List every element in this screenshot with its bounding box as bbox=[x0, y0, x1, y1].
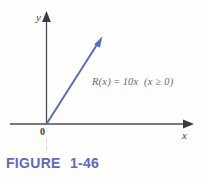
equation-equals: = bbox=[114, 76, 120, 87]
equation-rhs: 10x bbox=[123, 76, 139, 87]
x-axis-arrowhead bbox=[183, 120, 194, 129]
figure-caption: FIGURE 1-46 bbox=[6, 155, 99, 171]
plot-area: y x 0 R(x) = 10x (x ≥ 0) bbox=[0, 0, 206, 150]
origin-label: 0 bbox=[40, 127, 45, 137]
x-axis-label: x bbox=[182, 130, 187, 141]
y-axis-label: y bbox=[36, 12, 41, 23]
equation-annotation: R(x) = 10x (x ≥ 0) bbox=[92, 76, 173, 87]
equation-lhs: R(x) bbox=[92, 76, 111, 87]
figure-caption-prefix: FIGURE bbox=[6, 155, 61, 171]
y-axis-arrowhead bbox=[42, 11, 51, 22]
figure-caption-number: 1-46 bbox=[70, 155, 99, 171]
coordinate-plot bbox=[0, 0, 206, 150]
ray-rx-10x bbox=[47, 43, 99, 124]
figure-container: y x 0 R(x) = 10x (x ≥ 0) FIGURE 1-46 bbox=[0, 0, 206, 178]
equation-domain: (x ≥ 0) bbox=[144, 76, 173, 87]
